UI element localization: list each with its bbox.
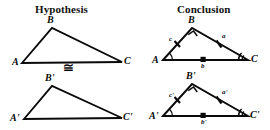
triangle-outline <box>163 28 248 60</box>
hypothesis-triangle-top <box>22 28 122 63</box>
side-label-a-prime: a' <box>222 88 227 96</box>
side-label-b: b <box>201 62 205 70</box>
hypothesis-triangle-bottom <box>24 86 122 119</box>
vertex-label-A-prime: A' <box>10 112 19 123</box>
triangle-outline <box>22 28 122 63</box>
angle-arc-A-prime <box>170 110 173 116</box>
conclusion-triangle-bottom <box>163 84 248 118</box>
side-label-a: a <box>222 32 226 40</box>
vertex-label-B-prime: B' <box>45 72 54 83</box>
side-label-c-prime: c' <box>169 91 174 99</box>
geometry-figure: Hypothesis Conclusion ≅ <box>0 0 270 130</box>
vertex-label-A: A <box>12 56 19 67</box>
triangle-outline <box>163 84 248 116</box>
vertex-label-A-prime-conclusion: A' <box>149 110 158 121</box>
triangle-outline <box>24 86 122 119</box>
figure-canvas <box>0 0 270 130</box>
vertex-label-B-conclusion: B <box>188 14 195 25</box>
angle-arc-A <box>170 54 173 60</box>
vertex-label-A-conclusion: A <box>152 54 159 65</box>
vertex-label-B-prime-conclusion: B' <box>186 70 195 81</box>
vertex-label-C-prime-conclusion: C' <box>250 109 259 120</box>
vertex-label-C: C <box>124 55 131 66</box>
vertex-label-B: B <box>47 14 54 25</box>
side-label-c: c <box>169 35 172 43</box>
side-label-b-prime: b' <box>201 118 206 126</box>
vertex-label-C-conclusion: C <box>251 53 258 64</box>
vertex-label-C-prime: C' <box>123 111 132 122</box>
conclusion-triangle-top <box>163 28 248 62</box>
